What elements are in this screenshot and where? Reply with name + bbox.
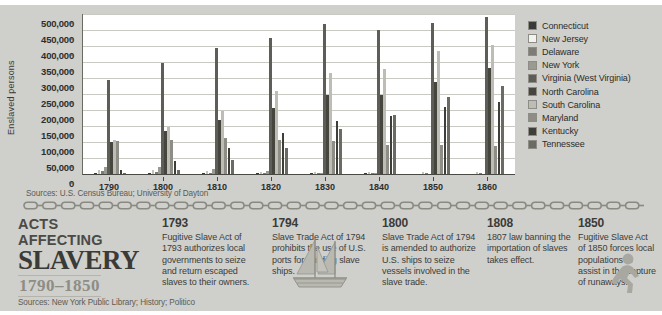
y-tick-mark: [69, 87, 74, 88]
event-year: 1800: [382, 216, 478, 230]
legend-label: New Jersey: [542, 34, 588, 44]
bar: [339, 129, 342, 174]
bar: [393, 115, 396, 174]
legend-item-tennessee[interactable]: Tennessee: [528, 138, 658, 151]
x-tick-label: 1840: [369, 182, 389, 192]
legend-label: Connecticut: [542, 21, 588, 31]
x-tick-mark: [379, 177, 380, 181]
chart-source-note: Sources: U.S. Census Bureau; University …: [26, 189, 208, 198]
legend-swatch: [528, 47, 537, 56]
legend-swatch: [528, 140, 537, 149]
x-tick-mark: [109, 177, 110, 181]
legend-swatch: [528, 87, 537, 96]
event-year: 1808: [487, 216, 583, 230]
event-text: 1807 law banning the importation of slav…: [487, 232, 583, 266]
bar: [501, 86, 504, 174]
timeline-event-1800: 1800 Slave Trade Act of 1794 is amended …: [382, 216, 478, 288]
legend-item-maryland[interactable]: Maryland: [528, 111, 658, 124]
event-year: 1850: [578, 216, 656, 230]
legend-item-delaware[interactable]: Delaware: [528, 45, 658, 58]
x-tick-mark: [433, 177, 434, 181]
x-axis-tick-labels: 17901800181018201830184018501860: [82, 177, 514, 189]
x-tick-label: 1830: [315, 182, 335, 192]
bar-group: [94, 14, 125, 174]
y-tick-mark: [69, 151, 74, 152]
timeline-event-1808: 1808 1807 law banning the importation of…: [487, 216, 583, 266]
chain-divider-icon: [22, 199, 644, 212]
bar-group: [364, 14, 395, 174]
title-line-acts-affecting: ACTS AFFECTING: [18, 216, 146, 248]
y-tick-mark: [69, 119, 74, 120]
plot-area: [82, 14, 515, 175]
legend-item-connecticut[interactable]: Connecticut: [528, 19, 658, 32]
legend-label: South Carolina: [542, 100, 600, 110]
legend-swatch: [528, 21, 537, 30]
x-tick-label: 1820: [261, 182, 281, 192]
sailing-ship-icon: [291, 236, 349, 292]
y-tick-mark: [69, 167, 74, 168]
bar: [479, 173, 482, 174]
bar-group: [472, 14, 503, 174]
x-tick-mark: [325, 177, 326, 181]
timeline-source-note: Sources: New York Public Library; Histor…: [18, 298, 195, 307]
legend-item-kentucky[interactable]: Kentucky: [528, 125, 658, 138]
legend-swatch: [528, 74, 537, 83]
legend-swatch: [528, 34, 537, 43]
legend-item-virginia-west-virginia[interactable]: Virginia (West Virginia): [528, 72, 658, 85]
legend-item-new-jersey[interactable]: New Jersey: [528, 32, 658, 45]
legend-swatch: [528, 127, 537, 136]
y-tick-mark: [69, 71, 74, 72]
bar: [231, 160, 234, 174]
event-year: 1793: [162, 216, 258, 230]
x-tick-mark: [487, 177, 488, 181]
x-tick-label: 1860: [477, 182, 497, 192]
y-tick-mark: [69, 55, 74, 56]
legend-item-north-carolina[interactable]: North Carolina: [528, 85, 658, 98]
legend-label: Delaware: [542, 47, 579, 57]
y-axis-tick-labels: 050,000100,000150,000200,000250,000300,0…: [18, 14, 80, 174]
legend-swatch: [528, 100, 537, 109]
x-tick-mark: [163, 177, 164, 181]
legend-item-south-carolina[interactable]: South Carolina: [528, 98, 658, 111]
infographic-root: Enslaved persons 050,000100,000150,00020…: [0, 0, 662, 315]
y-tick-mark: [69, 183, 74, 184]
legend-label: Kentucky: [542, 126, 578, 136]
bar-group: [256, 14, 287, 174]
bar: [123, 173, 126, 174]
legend-label: New York: [542, 60, 579, 70]
bar: [177, 170, 180, 174]
x-tick-label: 1810: [207, 182, 227, 192]
bar-chart: Enslaved persons 050,000100,000150,00020…: [0, 5, 662, 187]
y-tick-mark: [69, 135, 74, 136]
x-tick-label: 1850: [423, 182, 443, 192]
y-tick-mark: [69, 39, 74, 40]
bar: [285, 148, 288, 174]
running-person-icon: [606, 252, 646, 296]
chart-legend: ConnecticutNew JerseyDelawareNew YorkVir…: [528, 19, 658, 151]
x-tick-mark: [271, 177, 272, 181]
x-tick-mark: [217, 177, 218, 181]
event-text: Fugitive Slave Act of 1793 authorizes lo…: [162, 232, 258, 288]
legend-label: Virginia (West Virginia): [542, 73, 631, 83]
legend-item-new-york[interactable]: New York: [528, 59, 658, 72]
legend-swatch: [528, 113, 537, 122]
bar-group: [148, 14, 179, 174]
event-text: Slave Trade Act of 1794 is amended to au…: [382, 232, 478, 288]
legend-swatch: [528, 61, 537, 70]
title-block: ACTS AFFECTING SLAVERY 1790–1850: [18, 216, 146, 297]
bar-group: [418, 14, 449, 174]
title-line-years: 1790–1850: [18, 275, 101, 297]
title-line-slavery: SLAVERY: [18, 247, 146, 274]
legend-label: Maryland: [542, 113, 578, 123]
event-year: 1794: [272, 216, 368, 230]
bar: [447, 97, 450, 174]
bar-group: [310, 14, 341, 174]
legend-label: Tennessee: [542, 139, 585, 149]
timeline-event-1793: 1793 Fugitive Slave Act of 1793 authoriz…: [162, 216, 258, 288]
bar: [425, 173, 428, 174]
legend-label: North Carolina: [542, 87, 599, 97]
bottom-margin-strip: [0, 311, 662, 315]
bar-group: [202, 14, 233, 174]
y-tick-mark: [69, 23, 74, 24]
y-tick-mark: [69, 103, 74, 104]
